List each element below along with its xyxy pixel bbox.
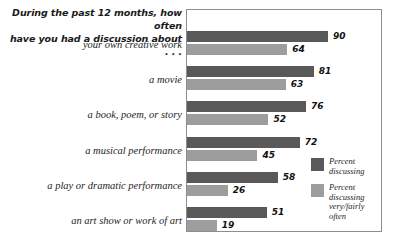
bar-3-series-1 xyxy=(187,150,257,161)
bar-5-series-1 xyxy=(187,220,217,231)
bar-value-label: 81 xyxy=(319,66,332,77)
category-axis-labels: your own creative worka moviea book, poe… xyxy=(0,9,182,232)
category-label-0: your own creative work xyxy=(0,39,182,51)
bar-value-label: 19 xyxy=(222,220,235,231)
bar-3-series-0 xyxy=(187,137,300,148)
category-label-4: a play or dramatic performance xyxy=(0,180,182,192)
bar-0-series-1 xyxy=(187,44,287,55)
bar-5-series-0 xyxy=(187,207,267,218)
legend-label-1: Percent discussing very/fairly often xyxy=(329,183,381,221)
bar-value-label: 51 xyxy=(272,207,285,218)
legend-swatch-icon-0 xyxy=(311,158,324,171)
bar-value-label: 58 xyxy=(283,172,296,183)
bar-value-label: 26 xyxy=(233,185,246,196)
category-label-3: a musical performance xyxy=(0,145,182,157)
bar-value-label: 72 xyxy=(305,137,318,148)
bar-2-series-0 xyxy=(187,101,306,112)
bar-1-series-0 xyxy=(187,66,314,77)
category-label-2: a book, poem, or story xyxy=(0,109,182,121)
legend-label-0: Percent discussing xyxy=(329,157,381,176)
chart-screenshot: During the past 12 months, how often hav… xyxy=(0,0,395,245)
bar-value-label: 52 xyxy=(273,114,286,125)
legend-swatch-icon-1 xyxy=(311,184,324,197)
bar-4-series-0 xyxy=(187,172,278,183)
bar-value-label: 76 xyxy=(311,101,324,112)
bar-value-label: 45 xyxy=(262,150,275,161)
bar-value-label: 90 xyxy=(333,31,346,42)
bar-value-label: 63 xyxy=(291,79,304,90)
category-label-1: a movie xyxy=(0,74,182,86)
plot-area: 906481637652724558265119 Percent discuss… xyxy=(186,9,382,232)
bar-value-label: 64 xyxy=(292,44,305,55)
bar-1-series-1 xyxy=(187,79,286,90)
bar-0-series-0 xyxy=(187,31,328,42)
bar-2-series-1 xyxy=(187,114,268,125)
category-label-5: an art show or work of art xyxy=(0,215,182,227)
bar-4-series-1 xyxy=(187,185,228,196)
